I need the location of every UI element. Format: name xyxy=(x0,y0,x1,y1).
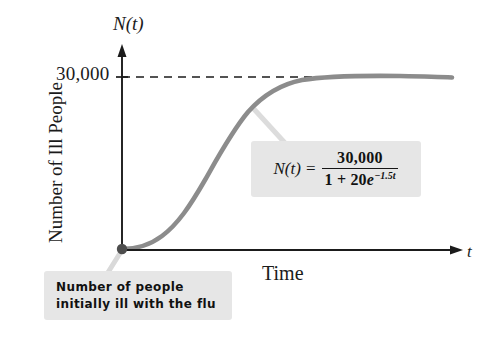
note-line-2: initially ill with the flu xyxy=(56,296,232,313)
formula-denominator-prefix: 1 + 20 xyxy=(325,171,367,188)
x-axis-title: Time xyxy=(262,263,304,283)
x-axis-arrowhead xyxy=(450,246,463,255)
formula-equals-sign: = xyxy=(306,159,316,179)
formula-denominator: 1 + 20e−1.5t xyxy=(322,169,399,188)
formula-left-hand-side: N(t) xyxy=(274,159,301,179)
note-callout-content: Number of people initially ill with the … xyxy=(44,271,232,320)
logistic-growth-figure: N(t) t 30,000 Time Number of Ill People … xyxy=(0,0,484,337)
initial-value-point xyxy=(117,244,127,254)
y-axis-title: Number of Ill People xyxy=(46,48,65,278)
formula-callout-content: N(t) = 30,000 1 + 20e−1.5t xyxy=(251,141,421,197)
formula-leader-line xyxy=(253,108,285,143)
note-line-1: Number of people xyxy=(56,279,232,296)
y-axis-arrowhead xyxy=(118,44,127,57)
formula-numerator: 30,000 xyxy=(334,150,386,168)
y-axis-variable-label: N(t) xyxy=(113,14,144,33)
x-axis-variable-label: t xyxy=(467,243,472,260)
formula-denominator-exponent: −1.5t xyxy=(374,170,395,181)
formula-fraction: 30,000 1 + 20e−1.5t xyxy=(322,150,399,189)
